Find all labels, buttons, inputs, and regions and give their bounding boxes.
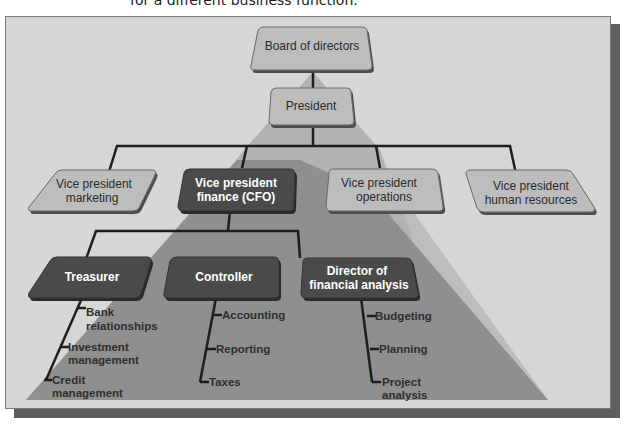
controller-label: Controller: [195, 270, 253, 284]
duty-bank-2: relationships: [86, 320, 158, 332]
director-line2: financial analysis: [309, 278, 409, 292]
board-of-directors-node[interactable]: Board of directors: [251, 27, 374, 73]
vp-human-resources-node[interactable]: Vice president human resources: [466, 170, 597, 215]
vp-marketing-line2: marketing: [66, 191, 119, 205]
president-label: President: [286, 99, 337, 113]
board-label: Board of directors: [265, 39, 360, 53]
vp-hr-line1: Vice president: [493, 179, 569, 193]
duty-credit-2: management: [52, 387, 123, 399]
duty-investment: Investment: [68, 341, 129, 353]
director-financial-analysis-node[interactable]: Director of financial analysis: [301, 258, 420, 301]
duty-budgeting: Budgeting: [375, 310, 432, 322]
duty-taxes: Taxes: [209, 376, 241, 388]
treasurer-node[interactable]: Treasurer: [28, 257, 153, 301]
vp-finance-line1: Vice president: [195, 176, 277, 190]
vp-hr-line2: human resources: [485, 193, 578, 207]
vp-operations-line1: Vice president: [341, 176, 417, 190]
vp-marketing-node[interactable]: Vice president marketing: [28, 170, 157, 214]
org-chart: Board of directors President Vice presid…: [0, 0, 626, 425]
duty-investment-2: management: [68, 354, 139, 366]
treasurer-label: Treasurer: [65, 270, 120, 284]
duty-credit: Credit: [52, 374, 85, 386]
vp-operations-line2: operations: [356, 190, 412, 204]
president-node[interactable]: President: [269, 88, 356, 128]
duty-reporting: Reporting: [216, 343, 270, 355]
duty-accounting: Accounting: [222, 309, 285, 321]
vp-operations-node[interactable]: Vice president operations: [326, 169, 445, 214]
vp-finance-cfo-node[interactable]: Vice president finance (CFO): [178, 169, 297, 214]
vp-marketing-line1: Vice president: [56, 177, 132, 191]
duty-project-2: analysis: [382, 389, 427, 401]
controller-node[interactable]: Controller: [164, 257, 281, 301]
director-line1: Director of: [327, 264, 389, 278]
duty-planning: Planning: [379, 343, 428, 355]
vp-finance-line2: finance (CFO): [197, 190, 276, 204]
duty-bank: Bank: [86, 306, 115, 318]
duty-project: Project: [382, 376, 421, 388]
